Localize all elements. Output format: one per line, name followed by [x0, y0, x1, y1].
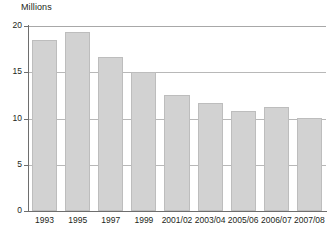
x-axis-tick-label: 1995	[61, 215, 94, 225]
x-axis-tick-label: 2006/07	[260, 215, 293, 225]
gridline	[28, 26, 326, 27]
bar	[131, 72, 156, 211]
bar	[65, 32, 90, 211]
x-axis-tick-label: 2005/06	[227, 215, 260, 225]
bar	[297, 118, 322, 211]
y-axis-tick-mark	[24, 72, 29, 73]
x-axis-tick-label: 2001/02	[160, 215, 193, 225]
bar-chart: Millions 05101520 19931995199719992001/0…	[0, 0, 330, 237]
y-axis-tick-mark	[24, 165, 29, 166]
y-axis-tick-mark	[24, 211, 29, 212]
bar	[231, 111, 256, 211]
y-axis-tick-mark	[24, 26, 29, 27]
x-axis-tick-labels: 19931995199719992001/022003/042005/06200…	[28, 215, 326, 229]
bar	[164, 95, 189, 211]
y-axis-tick-label: 5	[0, 160, 22, 169]
bar	[198, 103, 223, 211]
x-axis-line	[28, 211, 327, 212]
y-axis-tick-label: 20	[0, 21, 22, 30]
bar	[264, 107, 289, 211]
y-axis-tick-label: 15	[0, 67, 22, 76]
x-axis-tick-label: 2007/08	[293, 215, 326, 225]
plot-area	[28, 26, 326, 211]
x-axis-tick-label: 1993	[28, 215, 61, 225]
bar	[32, 40, 57, 211]
bar	[98, 57, 123, 211]
y-axis-tick-label: 10	[0, 114, 22, 123]
y-axis-tick-label: 0	[0, 206, 22, 215]
x-axis-tick-label: 1999	[127, 215, 160, 225]
y-axis-tick-mark	[24, 119, 29, 120]
x-axis-tick-label: 2003/04	[194, 215, 227, 225]
x-axis-tick-label: 1997	[94, 215, 127, 225]
